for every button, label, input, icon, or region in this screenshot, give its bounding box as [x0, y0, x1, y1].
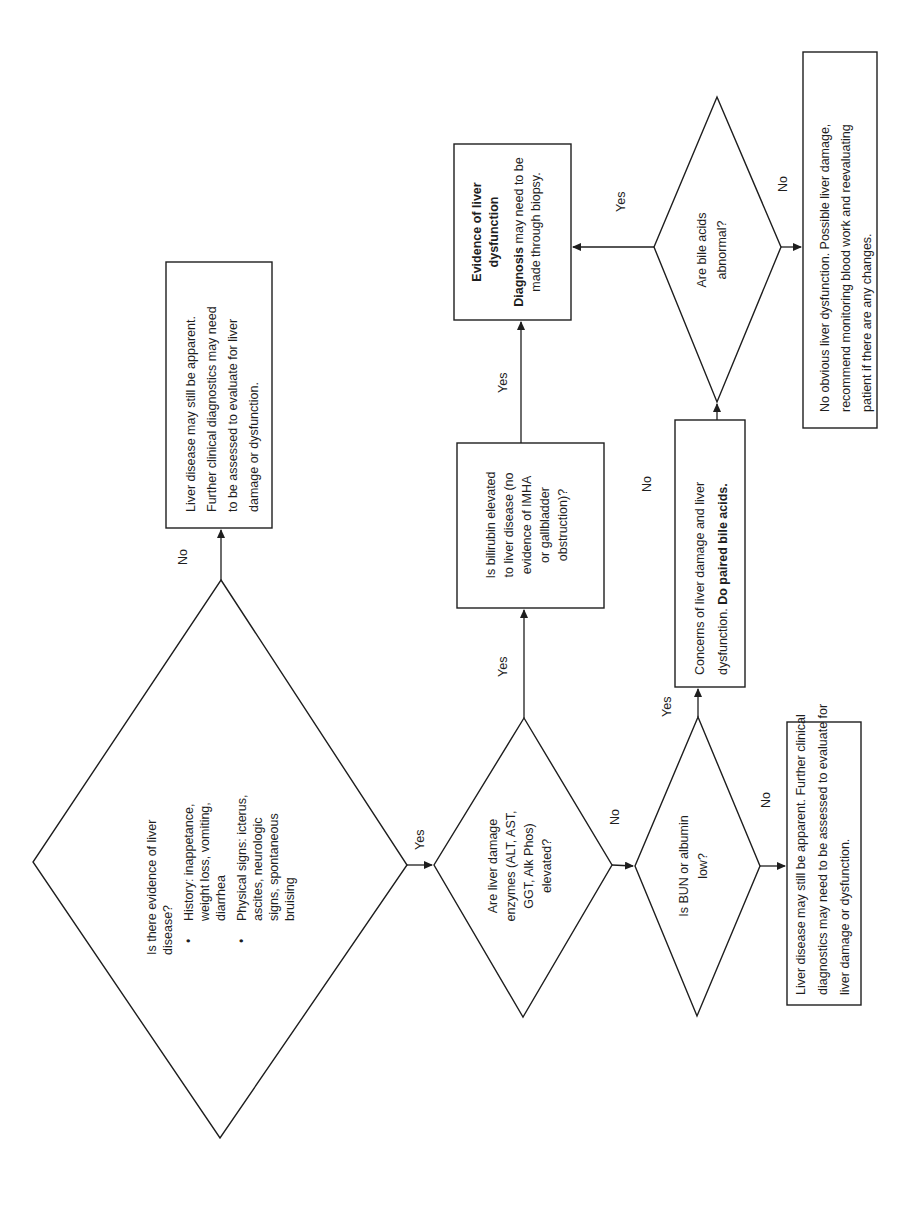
svg-text:abnormal?: abnormal? — [715, 220, 729, 279]
svg-text:signs, spontaneous: signs, spontaneous — [267, 813, 281, 921]
svg-text:evidence of IMHA: evidence of IMHA — [520, 475, 534, 574]
svg-text:Is BUN or albumin: Is BUN or albumin — [677, 815, 691, 916]
svg-text:No obvious liver dysfunction.: No obvious liver dysfunction. Possible l… — [818, 124, 832, 412]
concerns-box — [675, 420, 745, 687]
svg-text:Is bilirubin elevated: Is bilirubin elevated — [484, 471, 498, 578]
edge-label-bilirubin-yes: Yes — [496, 373, 510, 393]
edge-label-enzymes-no: No — [608, 809, 622, 825]
svg-text:GGT, Alk Phos): GGT, Alk Phos) — [522, 823, 536, 908]
svg-text:low?: low? — [696, 853, 710, 879]
edge-label-bilirubin-no: No — [640, 476, 654, 492]
svg-text:diagnostics may need to be ass: diagnostics may need to be assessed to e… — [816, 704, 830, 995]
svg-text:History: inappetance,: History: inappetance, — [182, 804, 196, 921]
edge-label-bun-yes: Yes — [660, 697, 674, 717]
svg-text:Are bile acids: Are bile acids — [695, 212, 709, 287]
connector-enzymes-no — [612, 865, 633, 866]
edge-label-start-yes: Yes — [413, 830, 427, 850]
svg-text:Is there evidence of liver: Is there evidence of liver — [145, 820, 159, 956]
svg-text:damage or dysfunction.: damage or dysfunction. — [247, 382, 261, 512]
svg-text:to be assessed to evaluate for: to be assessed to evaluate for liver — [226, 319, 240, 512]
svg-text:liver damage or dysfunction.: liver damage or dysfunction. — [838, 839, 852, 995]
edge-label-bile-no: No — [776, 176, 790, 192]
svg-text:dysfunction. Do paired bile ac: dysfunction. Do paired bile acids. — [716, 483, 730, 675]
svg-text:Physical signs: icterus,: Physical signs: icterus, — [235, 795, 249, 921]
svg-text:weight loss, vomiting,: weight loss, vomiting, — [198, 802, 212, 922]
flowchart-canvas: No Yes Yes No Yes No Yes No Yes No Is th… — [0, 0, 923, 1206]
svg-text:obstruction)?: obstruction)? — [556, 489, 570, 561]
svg-text:Liver disease may still be app: Liver disease may still be apparent. — [184, 316, 198, 512]
svg-text:Evidence of liver: Evidence of liver — [470, 182, 484, 281]
svg-text:Diagnosis may need to be: Diagnosis may need to be — [512, 157, 526, 306]
svg-text:Further clinical diagnostics m: Further clinical diagnostics may need — [205, 306, 219, 512]
start-decision-diamond — [33, 580, 407, 1138]
svg-text:to liver disease (no: to liver disease (no — [502, 472, 516, 577]
edge-label-enzymes-yes: Yes — [496, 657, 510, 677]
bullet-icon: • — [235, 939, 249, 943]
bullet-icon: • — [182, 939, 196, 943]
svg-text:recommend monitoring blood wor: recommend monitoring blood work and reev… — [839, 124, 853, 412]
edge-label-start-no: No — [176, 549, 190, 565]
svg-text:made through biopsy.: made through biopsy. — [529, 172, 543, 291]
svg-text:Liver disease may still be app: Liver disease may still be apparent. Fur… — [794, 714, 808, 995]
svg-text:Concerns of liver damage and l: Concerns of liver damage and liver — [693, 482, 707, 675]
svg-text:diarrhea: diarrhea — [214, 875, 228, 921]
svg-text:or gallbladder: or gallbladder — [538, 487, 552, 563]
svg-text:Are liver damage: Are liver damage — [486, 819, 500, 914]
svg-text:patient if there are any chang: patient if there are any changes. — [860, 233, 874, 412]
svg-text:disease?: disease? — [161, 905, 175, 955]
edge-label-bun-no: No — [759, 792, 773, 808]
svg-text:enzymes (ALT, AST,: enzymes (ALT, AST, — [504, 811, 518, 922]
svg-text:bruising: bruising — [283, 877, 297, 921]
svg-text:elevated?: elevated? — [540, 839, 554, 893]
svg-text:dysfunction: dysfunction — [487, 197, 501, 268]
svg-text:ascites, neurologic: ascites, neurologic — [251, 817, 265, 921]
edge-label-bile-yes: Yes — [614, 192, 628, 212]
